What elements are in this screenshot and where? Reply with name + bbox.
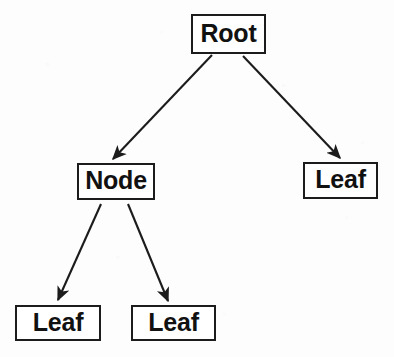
tree-node-root[interactable]: Root <box>191 14 266 54</box>
tree-node-root-label: Root <box>200 21 256 46</box>
edge-node-to-leaf-left <box>58 204 101 300</box>
tree-node-leaf-bottom-middle-label: Leaf <box>148 310 199 335</box>
tree-node-leaf-bottom-left[interactable]: Leaf <box>15 305 101 341</box>
edge-node-to-leaf-middle <box>128 204 168 301</box>
tree-node-leaf-right-label: Leaf <box>315 167 366 192</box>
tree-node-leaf-bottom-middle[interactable]: Leaf <box>131 305 216 341</box>
tree-node-node-label: Node <box>85 168 147 193</box>
edge-root-to-leaf-right <box>243 56 340 158</box>
tree-diagram-canvas: Root Node Leaf Leaf Leaf <box>0 0 394 357</box>
tree-node-leaf-right[interactable]: Leaf <box>303 162 378 199</box>
tree-node-node[interactable]: Node <box>77 163 155 200</box>
edge-root-to-node <box>113 55 212 159</box>
tree-node-leaf-bottom-left-label: Leaf <box>33 310 84 335</box>
